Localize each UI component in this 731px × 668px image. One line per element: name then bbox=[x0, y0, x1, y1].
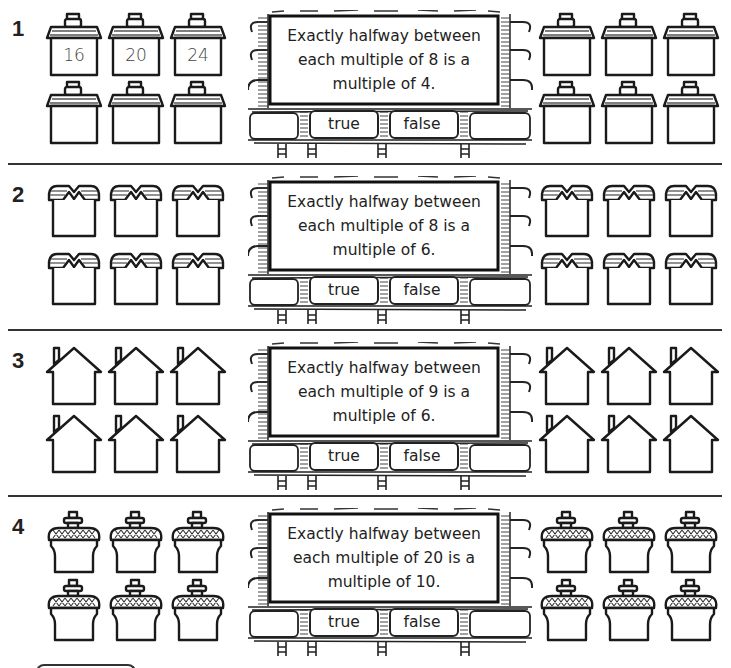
house-answer-box[interactable] bbox=[169, 180, 227, 242]
house-answer-box[interactable] bbox=[662, 512, 720, 574]
house-answer-box[interactable] bbox=[538, 14, 596, 76]
house-answer-box[interactable] bbox=[45, 414, 103, 476]
question-statement: Exactly halfway between each multiple of… bbox=[270, 16, 498, 104]
pointed-roof-chimney-house-icon bbox=[662, 346, 720, 408]
house-answer-box[interactable]: 24 bbox=[169, 14, 227, 76]
house-answer-box[interactable] bbox=[107, 414, 165, 476]
house-answer-box[interactable] bbox=[600, 346, 658, 408]
house-answer-box[interactable] bbox=[107, 580, 165, 642]
acorn-crosshatch-roof-house-icon bbox=[45, 512, 103, 574]
house-answer-box[interactable] bbox=[169, 512, 227, 574]
question-number: 4 bbox=[12, 514, 24, 540]
acorn-crosshatch-roof-house-icon bbox=[107, 580, 165, 642]
true-answer-button[interactable]: true bbox=[310, 110, 378, 137]
question-statement: Exactly halfway between each multiple of… bbox=[270, 348, 498, 436]
acorn-crosshatch-roof-house-icon bbox=[600, 580, 658, 642]
house-answer-box[interactable] bbox=[600, 180, 658, 242]
gabled-awning-house-icon bbox=[107, 248, 165, 310]
acorn-crosshatch-roof-house-icon bbox=[538, 512, 596, 574]
house-answer-box[interactable] bbox=[662, 346, 720, 408]
house-answer-box[interactable] bbox=[45, 180, 103, 242]
house-answer-box[interactable] bbox=[107, 512, 165, 574]
house-answer-box[interactable] bbox=[45, 512, 103, 574]
house-answer-box[interactable] bbox=[538, 512, 596, 574]
brick-wall-panel: Exactly halfway between each multiple of… bbox=[248, 176, 533, 326]
pointed-roof-chimney-house-icon bbox=[600, 414, 658, 476]
house-answer-box[interactable] bbox=[600, 82, 658, 144]
house-answer-box[interactable] bbox=[662, 414, 720, 476]
section-divider bbox=[8, 329, 722, 331]
house-answer-box[interactable] bbox=[169, 82, 227, 144]
false-answer-button[interactable]: false bbox=[388, 442, 456, 469]
left-house-grid: 16 20 24 bbox=[45, 2, 235, 142]
question-statement: Exactly halfway between each multiple of… bbox=[270, 514, 498, 602]
house-answer-box[interactable] bbox=[600, 248, 658, 310]
house-answer-box[interactable] bbox=[45, 248, 103, 310]
house-answer-box[interactable] bbox=[169, 346, 227, 408]
flat-roof-chimney-house-icon bbox=[107, 82, 165, 144]
house-answer-box[interactable]: 20 bbox=[107, 14, 165, 76]
flat-roof-chimney-house-icon bbox=[538, 14, 596, 76]
house-answer-box[interactable] bbox=[538, 248, 596, 310]
question-statement: Exactly halfway between each multiple of… bbox=[270, 182, 498, 270]
right-house-grid bbox=[538, 168, 728, 308]
acorn-crosshatch-roof-house-icon bbox=[662, 512, 720, 574]
house-answer-box[interactable] bbox=[600, 14, 658, 76]
true-answer-button[interactable]: true bbox=[310, 608, 378, 635]
house-answer-box[interactable] bbox=[107, 180, 165, 242]
next-question-box-edge bbox=[36, 664, 136, 668]
false-answer-button[interactable]: false bbox=[388, 110, 456, 137]
house-answer-box[interactable] bbox=[662, 82, 720, 144]
house-answer-box[interactable] bbox=[600, 414, 658, 476]
gabled-awning-house-icon bbox=[538, 248, 596, 310]
flat-roof-chimney-house-icon bbox=[45, 82, 103, 144]
acorn-crosshatch-roof-house-icon bbox=[45, 580, 103, 642]
acorn-crosshatch-roof-house-icon bbox=[538, 580, 596, 642]
pointed-roof-chimney-house-icon bbox=[662, 414, 720, 476]
section-divider bbox=[8, 495, 722, 497]
house-answer-box[interactable] bbox=[45, 346, 103, 408]
house-answer-box[interactable] bbox=[107, 82, 165, 144]
false-answer-button[interactable]: false bbox=[388, 276, 456, 303]
house-answer-box[interactable] bbox=[169, 414, 227, 476]
gabled-awning-house-icon bbox=[45, 248, 103, 310]
flat-roof-chimney-house-icon bbox=[662, 14, 720, 76]
pointed-roof-chimney-house-icon bbox=[45, 346, 103, 408]
pointed-roof-chimney-house-icon bbox=[107, 346, 165, 408]
question-number: 3 bbox=[12, 348, 24, 374]
gabled-awning-house-icon bbox=[169, 180, 227, 242]
question-row-3: 3 bbox=[0, 334, 731, 500]
house-answer-box[interactable] bbox=[107, 346, 165, 408]
acorn-crosshatch-roof-house-icon bbox=[107, 512, 165, 574]
true-answer-button[interactable]: true bbox=[310, 276, 378, 303]
house-answer-box[interactable] bbox=[600, 580, 658, 642]
house-answer-box[interactable] bbox=[538, 580, 596, 642]
pointed-roof-chimney-house-icon bbox=[45, 414, 103, 476]
house-answer-box[interactable] bbox=[662, 580, 720, 642]
house-answer-box[interactable] bbox=[538, 346, 596, 408]
gabled-awning-house-icon bbox=[45, 180, 103, 242]
pointed-roof-chimney-house-icon bbox=[169, 414, 227, 476]
house-answer-box[interactable] bbox=[538, 82, 596, 144]
house-answer-box[interactable] bbox=[45, 82, 103, 144]
house-answer-box[interactable]: 16 bbox=[45, 14, 103, 76]
house-answer-box[interactable] bbox=[169, 580, 227, 642]
gabled-awning-house-icon bbox=[600, 248, 658, 310]
house-answer-box[interactable] bbox=[662, 14, 720, 76]
house-answer-box[interactable] bbox=[107, 248, 165, 310]
left-house-grid bbox=[45, 500, 235, 640]
house-answer-box[interactable] bbox=[538, 180, 596, 242]
right-house-grid bbox=[538, 2, 728, 142]
house-answer-box[interactable] bbox=[662, 180, 720, 242]
house-answer-box[interactable] bbox=[662, 248, 720, 310]
true-answer-button[interactable]: true bbox=[310, 442, 378, 469]
gabled-awning-house-icon bbox=[169, 248, 227, 310]
brick-wall-panel: Exactly halfway between each multiple of… bbox=[248, 508, 533, 658]
house-answer-box[interactable] bbox=[45, 580, 103, 642]
house-answer-box[interactable] bbox=[600, 512, 658, 574]
false-answer-button[interactable]: false bbox=[388, 608, 456, 635]
house-answer-box[interactable] bbox=[538, 414, 596, 476]
gabled-awning-house-icon bbox=[107, 180, 165, 242]
house-answer-box[interactable] bbox=[169, 248, 227, 310]
flat-roof-chimney-house-icon bbox=[662, 82, 720, 144]
